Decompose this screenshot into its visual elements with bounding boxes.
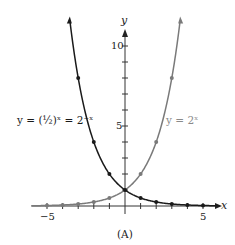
y-axis-arrow-icon xyxy=(122,29,128,37)
x-tick-label-5: 5 xyxy=(200,211,206,222)
figure-caption: (A) xyxy=(117,228,133,240)
data-point xyxy=(185,203,189,207)
data-point xyxy=(61,203,65,207)
data-point xyxy=(107,172,111,176)
data-point xyxy=(107,196,111,200)
data-point xyxy=(170,76,174,80)
data-point xyxy=(170,202,174,206)
data-point xyxy=(201,204,205,208)
data-point xyxy=(123,188,127,192)
data-point xyxy=(92,140,96,144)
curve-arrow-icon xyxy=(178,16,183,23)
data-point xyxy=(139,172,143,176)
x-tick-label-neg5: −5 xyxy=(40,211,55,222)
exponential-graph-figure: y x 10 5 −5 5 y = (½)ˣ = 2⁻ˣ y = 2ˣ (A) xyxy=(0,0,235,245)
data-point xyxy=(45,204,49,208)
right-curve-equation: y = 2ˣ xyxy=(166,114,199,126)
data-point xyxy=(76,202,80,206)
data-point xyxy=(76,76,80,80)
data-point xyxy=(154,200,158,204)
x-axis-label: x xyxy=(221,199,227,212)
y-axis-label: y xyxy=(121,14,127,27)
data-point xyxy=(154,140,158,144)
curve-arrow-icon xyxy=(67,16,72,23)
data-point xyxy=(92,200,96,204)
left-curve-equation: y = (½)ˣ = 2⁻ˣ xyxy=(17,114,93,126)
data-point xyxy=(139,196,143,200)
y-tick-label-5: 5 xyxy=(116,120,122,131)
y-tick-label-10: 10 xyxy=(111,40,124,51)
